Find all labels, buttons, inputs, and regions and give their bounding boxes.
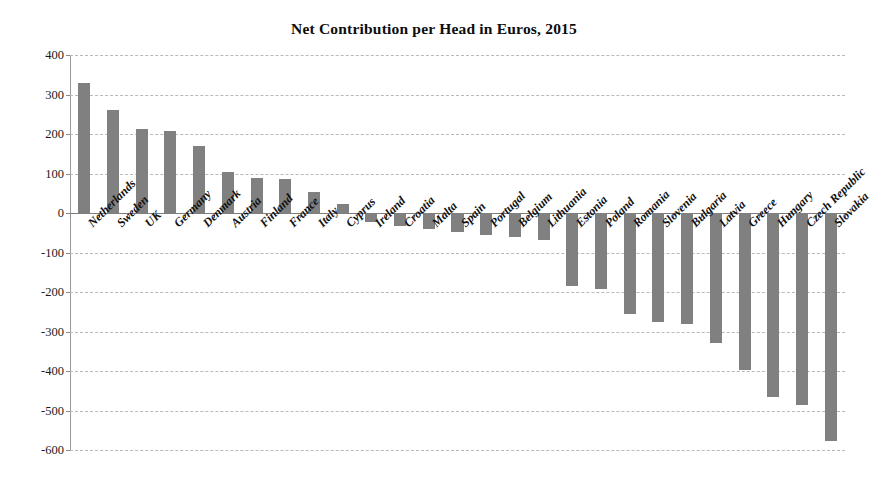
y-axis-tick-label: -400 — [6, 364, 64, 379]
y-axis-tick-label: -200 — [6, 285, 64, 300]
y-axis-tick-labels: 4003002001000-100-200-300-400-500-600 — [0, 55, 64, 450]
y-axis-tick-label: -100 — [6, 245, 64, 260]
chart-title: Net Contribution per Head in Euros, 2015 — [0, 20, 868, 38]
x-axis-tick-label: Ireland — [372, 194, 409, 231]
x-axis-tick-labels: NetherlandsSwedenUKGermanyDenmarkAustria… — [70, 55, 845, 450]
gridline — [70, 450, 845, 451]
x-axis-tick-label: UK — [142, 208, 165, 231]
y-axis-tick-label: 0 — [6, 206, 64, 221]
y-axis-tick-label: 100 — [6, 166, 64, 181]
y-axis-tick-label: 200 — [6, 127, 64, 142]
x-axis-tick-label: Croatia — [401, 193, 438, 230]
y-axis-tick-label: 300 — [6, 87, 64, 102]
y-axis-tick-label: -600 — [6, 443, 64, 458]
y-axis-tick-label: -500 — [6, 403, 64, 418]
y-axis-tick-label: 400 — [6, 48, 64, 63]
x-axis-tick-label: Greece — [745, 195, 780, 230]
x-axis-tick-label: Cyprus — [343, 195, 379, 231]
x-axis-tick-label: Spain — [458, 199, 489, 230]
y-axis-tick-label: -300 — [6, 324, 64, 339]
